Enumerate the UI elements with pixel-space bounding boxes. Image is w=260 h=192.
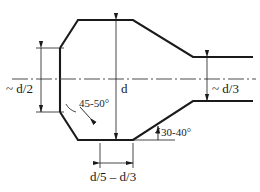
drawing-svg: [0, 0, 260, 192]
part-outline: [60, 20, 253, 140]
label-bottom-width: d/5 – d/3: [90, 170, 136, 183]
dimension-bottom-width: [100, 143, 133, 168]
label-angle-right: 30-40°: [161, 127, 191, 138]
angle-arc-right: [155, 128, 160, 133]
technical-drawing-canvas: ~ d/2 d ~ d/3 45-50° 30-40° d/5 – d/3: [0, 0, 260, 192]
outline-upper-profile: [60, 20, 253, 57]
label-left-height: ~ d/2: [6, 82, 33, 95]
label-right-height: ~ d/3: [212, 82, 239, 95]
angle-arc-left: [66, 104, 76, 112]
label-angle-left: 45-50°: [79, 98, 109, 109]
label-center-height: d: [121, 82, 128, 95]
